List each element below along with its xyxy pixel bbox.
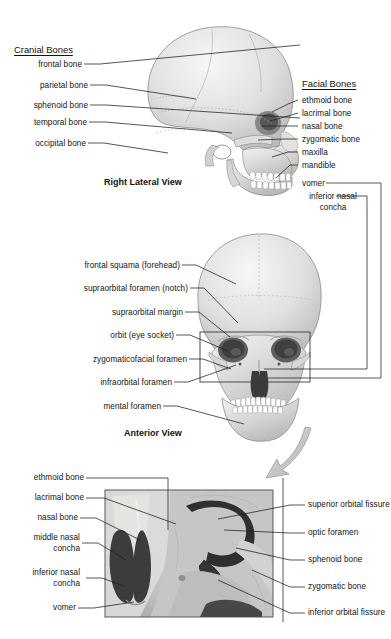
label-inferior-orbital-fissure: inferior orbital fissure xyxy=(308,608,385,618)
label-detail-zygomatic-bone: zygomatic bone xyxy=(308,582,366,592)
label-maxilla: maxilla xyxy=(302,148,328,158)
label-optic-foramen: optic foramen xyxy=(308,528,358,538)
label-superior-orbital-fissure: superior orbital fissure xyxy=(308,500,390,510)
label-frontal-squama: frontal squama (forehead) xyxy=(0,261,180,271)
anterior-skull-illustration xyxy=(198,234,321,441)
label-frontal-bone: frontal bone xyxy=(0,60,82,70)
label-inferior-nasal-concha-lateral: inferior nasal concha xyxy=(302,192,364,213)
facial-bones-heading: Facial Bones xyxy=(302,78,356,89)
label-orbit-eye-socket: orbit (eye socket) xyxy=(0,331,174,341)
detail-right-leader-lines xyxy=(218,478,305,622)
label-detail-ethmoid-bone: ethmoid bone xyxy=(0,473,84,483)
label-detail-nasal-bone: nasal bone xyxy=(0,513,78,523)
label-temporal-bone: temporal bone xyxy=(0,118,87,128)
label-sphenoid-bone: sphenoid bone xyxy=(0,101,88,111)
label-ethmoid-bone: ethmoid bone xyxy=(302,96,352,106)
label-zygomaticofacial-foramen: zygomaticofacial foramen xyxy=(0,355,187,365)
detail-zoom-arrow xyxy=(266,427,311,478)
label-mental-foramen: mental foramen xyxy=(0,402,161,412)
caption-right-lateral-view: Right Lateral View xyxy=(104,177,182,187)
label-vomer-lateral: vomer xyxy=(302,179,325,189)
label-detail-lacrimal-bone: lacrimal bone xyxy=(0,493,84,503)
label-parietal-bone: parietal bone xyxy=(0,81,88,91)
label-detail-inferior-nasal-concha: inferior nasal concha xyxy=(8,568,80,589)
anterior-detail-callout-box xyxy=(200,332,310,382)
label-infraorbital-foramen: infraorbital foramen xyxy=(0,378,172,388)
label-mandible: mandible xyxy=(302,161,336,171)
lateral-left-leader-lines xyxy=(84,45,300,153)
caption-anterior-view: Anterior View xyxy=(124,428,182,438)
cranial-bones-heading: Cranial Bones xyxy=(14,44,73,55)
label-occipital-bone: occipital bone xyxy=(0,139,86,149)
label-supraorbital-foramen: supraorbital foramen (notch) xyxy=(0,284,188,294)
orbit-detail-illustration xyxy=(105,490,273,617)
lateral-skull-illustration xyxy=(148,27,299,196)
label-nasal-bone: nasal bone xyxy=(302,122,343,132)
label-zygomatic-bone: zygomatic bone xyxy=(302,135,360,145)
label-supraorbital-margin: supraorbital margin xyxy=(0,308,183,318)
detail-left-leader-lines xyxy=(78,478,176,608)
label-detail-sphenoid-bone: sphenoid bone xyxy=(308,555,362,565)
skull-anatomy-figure: Cranial Bones Facial Bones frontal bone … xyxy=(0,0,391,639)
label-detail-middle-nasal-concha: middle nasal concha xyxy=(8,533,80,554)
label-lacrimal-bone: lacrimal bone xyxy=(302,109,351,119)
label-detail-vomer: vomer xyxy=(0,603,76,613)
